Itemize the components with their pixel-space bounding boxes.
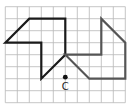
rotated-shape <box>65 19 125 79</box>
original-shape <box>5 19 65 79</box>
point-label-c: C <box>62 81 69 92</box>
center-point-c <box>63 75 68 80</box>
grid-diagram: C <box>0 0 131 104</box>
